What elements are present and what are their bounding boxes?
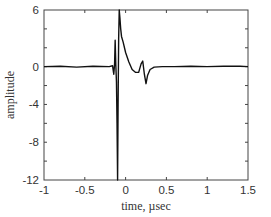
x-tick-label: 0 — [122, 184, 128, 196]
y-tick-label: -4 — [29, 98, 40, 110]
x-tick-label: 1 — [204, 184, 210, 196]
y-axis-label: amplitude — [3, 71, 17, 119]
x-tick-label: -1 — [39, 184, 49, 196]
x-axis-label: time, µsec — [121, 199, 171, 213]
plot-area — [44, 10, 248, 180]
y-tick-labels: 60-4-8-12 — [22, 4, 39, 186]
y-tick-label: 0 — [33, 61, 39, 73]
x-tick-label: -0.5 — [75, 184, 95, 196]
y-tick-label: -8 — [29, 136, 39, 148]
y-tick-label: 6 — [33, 4, 39, 16]
x-tick-labels: -1-0.500.511.5 — [39, 184, 256, 196]
chart: -1-0.500.511.5 60-4-8-12 time, µsec ampl… — [0, 0, 271, 217]
x-tick-label: 1.5 — [240, 184, 256, 196]
y-tick-label: -12 — [22, 174, 39, 186]
x-tick-label: 0.5 — [158, 184, 174, 196]
axes-frame — [44, 10, 248, 180]
